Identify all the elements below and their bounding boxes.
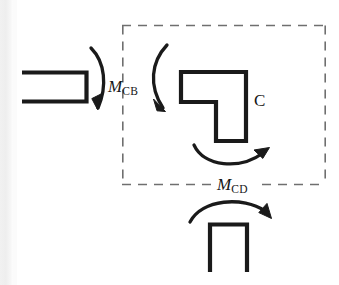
moment-cb-symbol: M xyxy=(108,77,122,96)
dashed-cut-boundary xyxy=(122,26,326,186)
joint-member-L xyxy=(181,72,246,141)
moment-cb-label: MCB xyxy=(108,78,138,98)
joint-label-c: C xyxy=(254,92,265,109)
beam-member-left xyxy=(22,73,87,102)
moment-arrow-beam-end xyxy=(91,48,104,110)
free-body-diagram-svg xyxy=(0,0,339,285)
moment-cb-subscript: CB xyxy=(122,85,138,97)
figure-canvas: — - ——— xyxy=(0,0,339,285)
moment-arrow-joint-bottom xyxy=(194,145,270,164)
column-member-below xyxy=(210,225,247,273)
moment-cd-label: MCD xyxy=(215,176,250,196)
joint-label-c-text: C xyxy=(254,91,265,110)
moment-cd-symbol: M xyxy=(217,175,231,194)
arrowhead xyxy=(259,203,272,218)
moment-cd-subscript: CD xyxy=(231,183,248,195)
moment-arrow-joint-top xyxy=(153,45,167,112)
moment-arrow-column-top xyxy=(190,202,272,222)
